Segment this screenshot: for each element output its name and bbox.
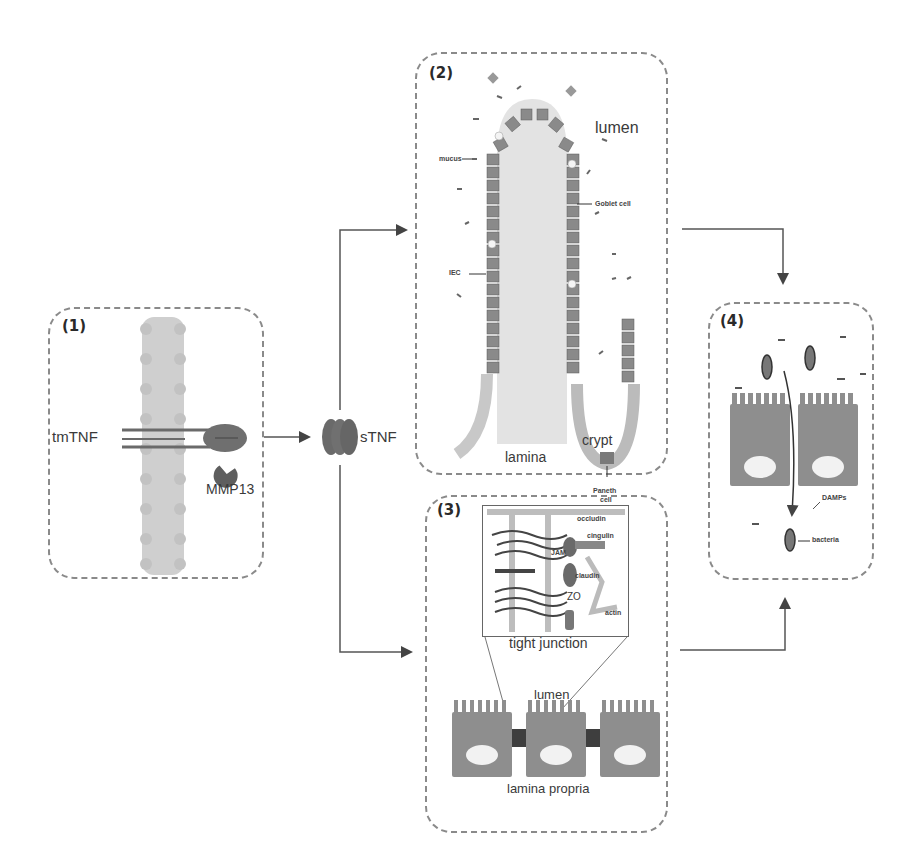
crypt-label: crypt xyxy=(582,432,612,448)
goblet-cell-label: Goblet cell xyxy=(595,200,631,207)
tight-junction-title: tight junction xyxy=(509,635,588,651)
panel-3-tight-junction: (3) xyxy=(425,495,668,833)
occludin-label: occludin xyxy=(577,515,606,522)
panel-4-barrier-breach: (4) xyxy=(708,302,874,580)
zo-label: ZO xyxy=(567,591,581,602)
iec-label: IEC xyxy=(449,269,461,276)
stnf-label: sTNF xyxy=(360,428,397,445)
cingulin-label: cingulin xyxy=(587,532,614,539)
mucus-label: mucus xyxy=(439,155,462,162)
actin-label: actin xyxy=(605,609,621,616)
lamina-label: lamina xyxy=(505,449,546,465)
jam-label: JAM xyxy=(551,549,566,556)
claudin-label: claudin xyxy=(575,572,600,579)
lamina-propria-label: lamina propria xyxy=(507,781,589,796)
damps-label: DAMPs xyxy=(822,494,847,501)
villus-crypt-illustration xyxy=(417,54,670,477)
paneth-label: Paneth xyxy=(593,487,616,494)
panel-2-villus: (2) xyxy=(415,52,668,475)
barrier-illustration xyxy=(710,304,876,582)
lumen-label: lumen xyxy=(595,119,639,137)
lumen-label: lumen xyxy=(534,687,569,702)
bacteria-label: bacteria xyxy=(812,536,839,543)
